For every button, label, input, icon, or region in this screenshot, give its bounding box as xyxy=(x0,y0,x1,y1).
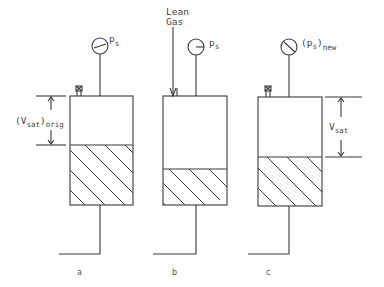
pvt-cell-diagram: ps xyxy=(0,0,384,287)
outlet-pipe-c xyxy=(248,206,289,254)
dimension-label-c: Vsat xyxy=(329,121,348,135)
panel-label-b: b xyxy=(172,268,177,277)
outlet-pipe-a xyxy=(59,205,100,254)
inlet-label-2: Gas xyxy=(166,16,183,27)
inlet-arrow-icon xyxy=(170,27,177,96)
panel-c: (ps)new xyxy=(200,37,370,277)
valve-icon xyxy=(265,86,271,97)
cell-b xyxy=(163,96,227,205)
gauge-label-b: ps xyxy=(209,37,219,51)
cell-c xyxy=(258,97,322,206)
panel-label-a: a xyxy=(77,268,82,277)
outlet-pipe-b xyxy=(153,205,196,254)
panel-a: ps xyxy=(10,33,210,277)
panel-label-c: c xyxy=(266,268,270,277)
liquid-hatch-a xyxy=(10,60,210,260)
pressure-gauge-icon xyxy=(188,39,204,96)
pressure-gauge-icon xyxy=(92,38,108,96)
gauge-label-a: ps xyxy=(109,33,119,48)
cell-a xyxy=(70,96,133,205)
valve-icon xyxy=(76,86,82,96)
liquid-hatch-b xyxy=(120,80,270,230)
gauge-label-c: (ps)new xyxy=(301,37,337,52)
pressure-gauge-icon xyxy=(281,39,297,97)
panel-b: Lean Gas ps b xyxy=(120,6,270,277)
dimension-label-a: (Vsat)orig xyxy=(15,115,64,129)
liquid-hatch-c xyxy=(200,80,370,250)
